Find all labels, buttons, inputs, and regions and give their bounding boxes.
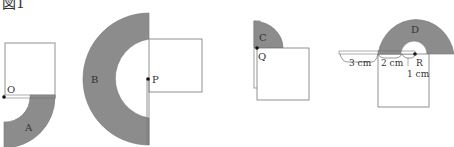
label-c: C — [259, 32, 267, 43]
figure-b: P B — [83, 13, 202, 145]
point-o — [2, 95, 6, 99]
label-r: R — [416, 58, 423, 68]
figure-a: O A — [2, 43, 55, 147]
label-a: A — [24, 122, 33, 133]
figure-d: D R 3 cm 2 cm 1 cm — [339, 20, 454, 107]
point-q — [255, 46, 259, 50]
dim-2cm: 2 cm — [381, 58, 404, 68]
label-o: O — [7, 84, 15, 95]
dim-3cm: 3 cm — [349, 58, 372, 68]
figure-c: C Q — [254, 21, 309, 100]
label-p: P — [152, 74, 159, 85]
point-p — [146, 77, 150, 81]
strip-d — [339, 51, 415, 54]
diagram-canvas: O A P B C Q D R 3 cm 2 cm 1 cm — [0, 0, 454, 147]
dim-1cm: 1 cm — [407, 69, 430, 79]
label-b: B — [91, 74, 98, 85]
label-d: D — [411, 24, 419, 35]
label-q: Q — [258, 51, 266, 62]
